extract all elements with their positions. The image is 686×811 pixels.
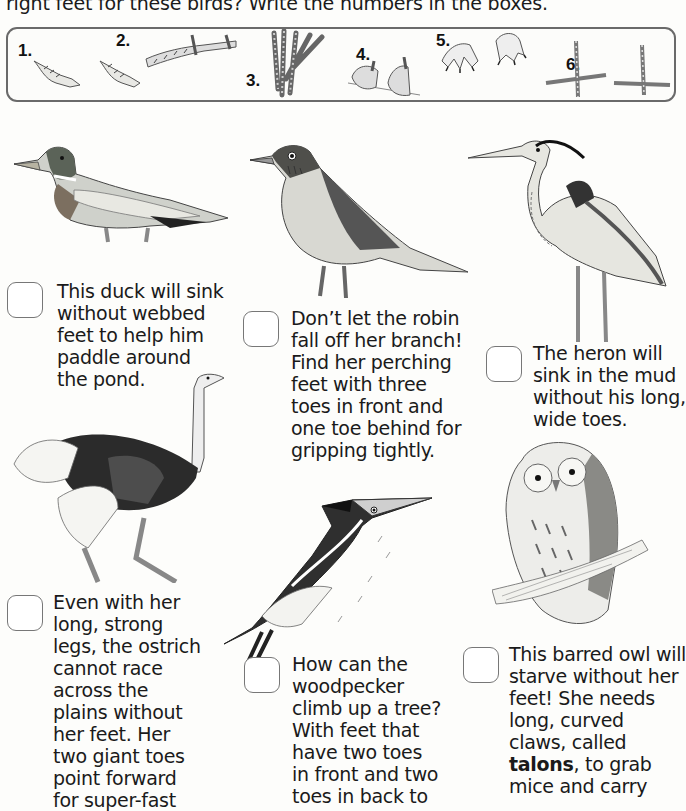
woodpecker-illustration [222,496,436,666]
perching-foot-icon [348,57,420,101]
heron-caption: The heron will sink in the mud without h… [533,342,686,430]
duck-answer-box[interactable] [7,282,43,318]
foot-option-2-number: 2. [116,31,130,51]
ostrich-caption: Even with her long, strong legs, the ost… [53,591,201,811]
ostrich-illustration [8,368,228,583]
talon-foot-icon [434,31,530,73]
feet-options-panel: 1. 2. 3. 4. 5. 6. [6,27,676,102]
wide-toes-foot-icon [144,33,240,69]
duck-illustration [10,140,230,250]
zygodactyl-foot-icon [544,39,672,99]
robin-answer-box[interactable] [243,311,279,347]
robin-caption: Don’t let the robin fall off her branch!… [291,307,462,461]
barred-owl-illustration [492,440,652,630]
ostrich-answer-box[interactable] [7,595,43,631]
foot-option-3-number: 3. [246,71,260,91]
long-toes-foot-icon [264,29,334,99]
heron-illustration [466,136,679,346]
woodpecker-answer-box[interactable] [244,657,280,693]
woodpecker-caption: How can the woodpecker climb up a tree? … [292,653,441,807]
owl-answer-box[interactable] [463,647,499,683]
robin-illustration [250,138,470,303]
webbed-foot-icon [30,57,140,93]
owl-caption: This barred owl will starve without her … [509,643,686,797]
instructions-text: right feet for these birds? Write the nu… [6,0,685,15]
heron-answer-box[interactable] [486,346,522,382]
talons-term: talons [509,753,574,775]
